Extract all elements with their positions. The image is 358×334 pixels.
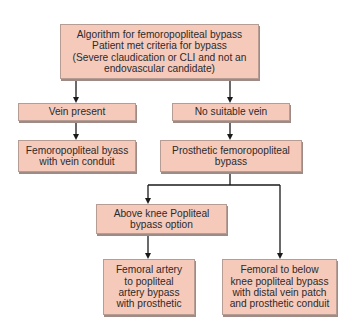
node-above-knee-label: Above knee Popliteal bypass option bbox=[114, 208, 210, 231]
node-vein-present: Vein present bbox=[18, 103, 136, 121]
node-no-suitable-vein-label: No suitable vein bbox=[195, 106, 268, 117]
node-vein-present-label: Vein present bbox=[49, 106, 106, 117]
node-fem-artery-prosthetic: Femoral artery to popliteal artery bypas… bbox=[103, 259, 195, 315]
node-fem-artery-prosthetic-label: Femoral artery to popliteal artery bypas… bbox=[116, 264, 182, 309]
node-prosthetic-fem-pop: Prosthetic femoropopliteal bypass bbox=[160, 140, 302, 172]
node-fem-pop-vein-label: Femoropopliteal byass with vein conduit bbox=[26, 145, 129, 168]
node-prosthetic-fem-pop-label: Prosthetic femoropopliteal bypass bbox=[172, 145, 290, 168]
node-fem-below-knee-label: Femoral to below knee popliteal bypass w… bbox=[230, 264, 330, 309]
node-above-knee-option: Above knee Popliteal bypass option bbox=[96, 204, 227, 234]
node-no-suitable-vein: No suitable vein bbox=[172, 103, 290, 121]
flowchart-canvas: Algorithm for femoropopliteal bypass Pat… bbox=[0, 0, 358, 334]
node-fem-pop-vein-conduit: Femoropopliteal byass with vein conduit bbox=[18, 140, 136, 172]
node-fem-below-knee: Femoral to below knee popliteal bypass w… bbox=[222, 259, 337, 315]
node-root-algorithm: Algorithm for femoropopliteal bypass Pat… bbox=[60, 24, 259, 79]
node-root-label: Algorithm for femoropopliteal bypass Pat… bbox=[73, 29, 247, 74]
